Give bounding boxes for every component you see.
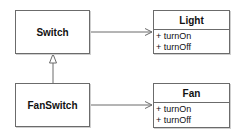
class-header: Light bbox=[154, 11, 229, 30]
operation-item: + turnOn bbox=[156, 31, 229, 42]
operation-item: + turnOn bbox=[156, 104, 229, 115]
inheritance-arrow-icon bbox=[50, 54, 57, 63]
operations-list: + turnOn + turnOff bbox=[154, 30, 229, 53]
class-header: Fan bbox=[154, 84, 229, 103]
class-light[interactable]: Light + turnOn + turnOff bbox=[153, 10, 230, 54]
class-fan[interactable]: Fan + turnOn + turnOff bbox=[153, 83, 230, 128]
operation-item: + turnOff bbox=[156, 42, 229, 53]
operation-item: + turnOff bbox=[156, 115, 229, 126]
class-name: FanSwitch bbox=[27, 100, 77, 111]
class-name: Switch bbox=[36, 27, 68, 38]
operations-list: + turnOn + turnOff bbox=[154, 103, 229, 126]
class-switch[interactable]: Switch bbox=[15, 10, 90, 54]
class-fanswitch[interactable]: FanSwitch bbox=[15, 83, 90, 127]
class-name: Fan bbox=[183, 88, 201, 99]
class-name: Light bbox=[179, 15, 203, 26]
